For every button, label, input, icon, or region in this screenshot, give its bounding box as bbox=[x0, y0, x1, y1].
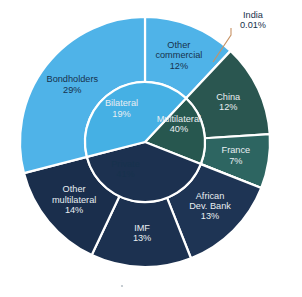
callout-label-india-line-1: 0.01% bbox=[240, 21, 266, 31]
sunburst-chart: Othercommercial12%China12%France7%Africa… bbox=[0, 0, 302, 297]
scan-artifact-speck bbox=[121, 285, 123, 287]
callout-label-india-line-0: India bbox=[243, 10, 264, 20]
chart-canvas: Othercommercial12%China12%France7%Africa… bbox=[0, 0, 302, 297]
callout-label-india: India0.01% bbox=[240, 10, 266, 30]
inner-ring-group bbox=[85, 82, 205, 202]
